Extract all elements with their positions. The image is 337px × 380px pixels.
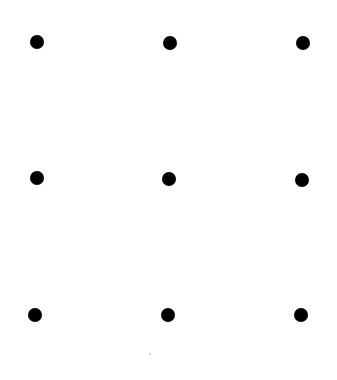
dot-r3-c3	[294, 308, 308, 322]
dot-r2-c3	[295, 173, 309, 187]
dot-group	[28, 35, 310, 322]
dot-grid-diagram	[0, 0, 337, 380]
dot-r2-c1	[30, 171, 44, 185]
dot-r3-c1	[28, 308, 42, 322]
speck	[149, 353, 151, 355]
dot-r1-c2	[163, 36, 177, 50]
dot-r3-c2	[161, 308, 175, 322]
dot-r1-c1	[30, 35, 44, 49]
dot-r2-c2	[162, 172, 176, 186]
dot-r1-c3	[296, 36, 310, 50]
